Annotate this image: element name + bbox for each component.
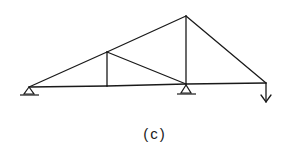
- pin-support-left-icon: [20, 87, 39, 95]
- top-chord-right: [186, 16, 266, 83]
- pin-support-right-icon: [177, 85, 196, 94]
- diagonal-member: [107, 52, 186, 84]
- bottom-chord-right: [186, 83, 266, 84]
- figure-caption: (c): [0, 125, 292, 142]
- bottom-chord-left: [29, 86, 107, 87]
- bottom-chord-middle: [107, 84, 186, 86]
- top-chord-upper: [107, 16, 186, 52]
- top-chord-lower: [29, 52, 107, 87]
- load-arrow-down-icon: [261, 83, 271, 102]
